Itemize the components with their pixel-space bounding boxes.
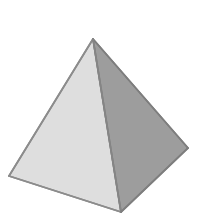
pyramid-illustration xyxy=(0,0,203,216)
image-canvas xyxy=(0,0,203,216)
